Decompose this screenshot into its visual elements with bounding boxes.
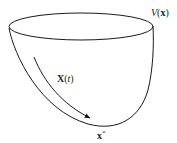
bowl-surface — [9, 26, 153, 126]
trajectory-label: X(t) — [57, 73, 74, 85]
surface-label: V(x) — [151, 7, 169, 19]
minimum-label: x* — [97, 129, 106, 141]
trajectory-arrow — [34, 57, 90, 118]
lyapunov-diagram: V(x) X(t) x* — [0, 0, 177, 143]
bowl-rim — [9, 13, 153, 40]
